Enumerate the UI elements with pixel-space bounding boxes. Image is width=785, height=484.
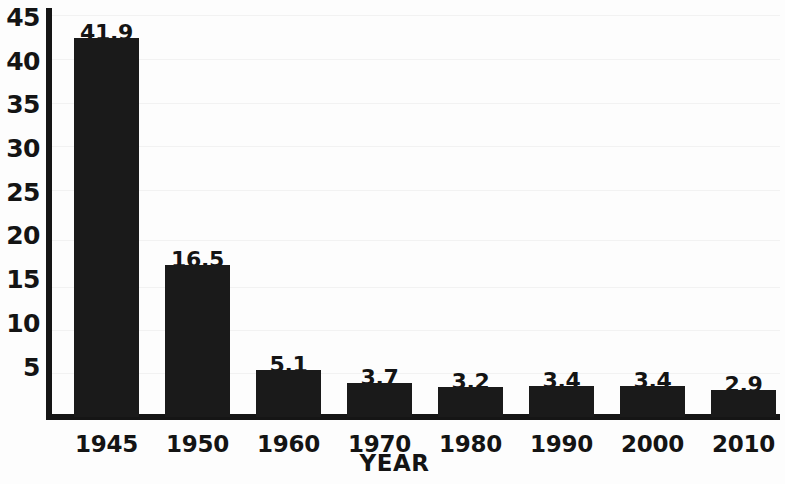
bar-group: 3.4 2000	[620, 0, 685, 484]
bar	[529, 386, 594, 417]
bar	[74, 38, 139, 417]
bar-chart: 45 40 35 30 25 20 15 10 5 41.9 1945 16.5…	[0, 0, 785, 484]
bar	[165, 265, 230, 417]
x-axis-title: YEAR	[0, 452, 785, 475]
plot-area: 41.9 1945 16.5 1950 5.1 1960 3.7 1970 3.…	[0, 0, 785, 484]
bar-group: 16.5 1950	[165, 0, 230, 484]
x-axis-title-text: YEAR	[360, 450, 430, 476]
bar-group: 3.7 1970	[347, 0, 412, 484]
bar-group: 3.4 1990	[529, 0, 594, 484]
bar-group: 41.9 1945	[74, 0, 139, 484]
bar	[438, 387, 503, 417]
bar-group: 3.2 1980	[438, 0, 503, 484]
bar	[620, 386, 685, 417]
bar	[347, 383, 412, 417]
bar	[256, 370, 321, 417]
bar-group: 5.1 1960	[256, 0, 321, 484]
bar-group: 2.9 2010	[711, 0, 776, 484]
bar	[711, 390, 776, 417]
